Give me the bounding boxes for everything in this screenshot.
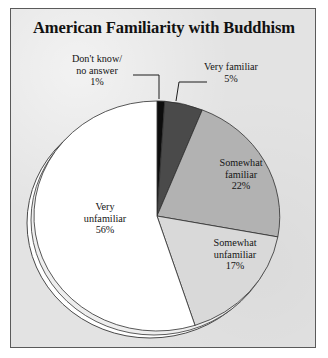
pie-label-somewhat-familiar-line1: Somewhat xyxy=(195,157,287,169)
pie-label-dont-know-value: 1% xyxy=(45,76,149,88)
pie-label-somewhat-unfamiliar-line2: unfamiliar xyxy=(187,249,283,261)
pie-label-very-unfamiliar-line1: Very xyxy=(59,201,151,213)
pie-label-very-familiar-value: 5% xyxy=(179,73,283,85)
pie-label-somewhat-unfamiliar-value: 17% xyxy=(187,260,283,272)
pie-label-dont-know-line2: no answer xyxy=(45,65,149,77)
pie-label-dont-know: Don't know/ no answer 1% xyxy=(45,53,149,88)
pie-label-somewhat-familiar: Somewhat familiar 22% xyxy=(195,157,287,192)
leader-line-very-familiar xyxy=(176,82,207,101)
pie-label-dont-know-line1: Don't know/ xyxy=(45,53,149,65)
pie-label-very-unfamiliar: Very unfamiliar 56% xyxy=(59,201,151,236)
pie-label-very-unfamiliar-line2: unfamiliar xyxy=(59,213,151,225)
pie-label-somewhat-familiar-value: 22% xyxy=(195,180,287,192)
pie-label-somewhat-familiar-line2: familiar xyxy=(195,169,287,181)
pie-label-very-familiar: Very familiar 5% xyxy=(179,61,283,84)
chart-title: American Familiarity with Buddhism xyxy=(11,18,316,38)
pie-label-somewhat-unfamiliar: Somewhat unfamiliar 17% xyxy=(187,237,283,272)
pie-label-very-familiar-line1: Very familiar xyxy=(179,61,283,73)
pie-label-somewhat-unfamiliar-line1: Somewhat xyxy=(187,237,283,249)
pie-label-very-unfamiliar-value: 56% xyxy=(59,224,151,236)
chart-panel: American Familiarity with Buddhism xyxy=(10,8,316,348)
pie-chart-figure: American Familiarity with Buddhism xyxy=(0,0,328,358)
